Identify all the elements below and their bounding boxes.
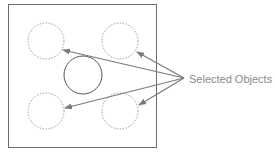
arrow-to-top-right (137, 52, 184, 78)
arrow-to-bottom-right (139, 78, 184, 105)
drawing-frame (9, 5, 157, 148)
selected-objects-label: Selected Objects (189, 73, 272, 85)
arrow-to-top-left (63, 50, 184, 78)
unselected-object-center[interactable] (64, 56, 102, 94)
selected-object-bottom-left[interactable] (28, 93, 64, 129)
selected-object-bottom-right[interactable] (102, 93, 138, 129)
selected-object-top-left[interactable] (28, 23, 64, 59)
selected-object-top-right[interactable] (102, 23, 138, 59)
arrow-to-bottom-left (65, 78, 184, 108)
